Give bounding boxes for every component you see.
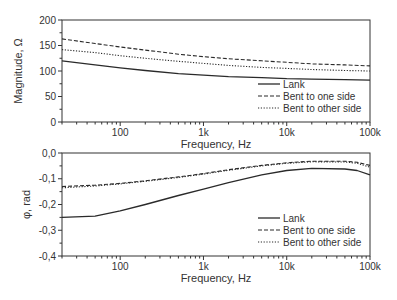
x-tick-label: 100 xyxy=(112,261,129,272)
magnitude-plot: 1001k10k100kFrequency, Hz050100150200Mag… xyxy=(12,15,382,151)
legend-label: Lank xyxy=(283,213,306,224)
x-tick-label: 100k xyxy=(359,261,382,272)
legend-label: Bent to one side xyxy=(283,225,356,236)
legend-label: Bent to other side xyxy=(283,237,362,248)
y-axis-label: φ, rad xyxy=(20,190,32,219)
series-bent-to-one-side xyxy=(62,39,370,66)
y-tick-label: -0,3 xyxy=(39,225,57,236)
phase-plot: 1001k10k100kFrequency, Hz-0,4-0,3-0,2-0,… xyxy=(20,148,382,285)
series-bent-to-one-side xyxy=(62,161,370,186)
series-lank xyxy=(62,61,370,80)
magnitude-legend: LankBent to one sideBent to other side xyxy=(258,79,362,114)
x-tick-label: 10k xyxy=(279,261,296,272)
x-tick-label: 1k xyxy=(198,127,210,138)
y-tick-label: 50 xyxy=(45,91,57,102)
y-tick-label: -0,1 xyxy=(39,173,57,184)
y-tick-label: -0,4 xyxy=(39,251,57,262)
legend-label: Bent to other side xyxy=(283,103,362,114)
y-tick-label: 150 xyxy=(39,40,56,51)
x-tick-label: 100 xyxy=(112,127,129,138)
series-bent-to-other-side xyxy=(62,50,370,71)
y-tick-label: 0 xyxy=(50,117,56,128)
y-axis-label: Magnitude, Ω xyxy=(12,38,24,104)
y-tick-label: 200 xyxy=(39,15,56,26)
x-tick-label: 10k xyxy=(279,127,296,138)
series-lank xyxy=(62,168,370,217)
legend-label: Lank xyxy=(283,79,306,90)
x-axis-label: Frequency, Hz xyxy=(181,138,252,150)
y-tick-label: 100 xyxy=(39,66,56,77)
x-tick-label: 1k xyxy=(198,261,210,272)
y-tick-label: 0,0 xyxy=(42,148,56,159)
chart-figure: 1001k10k100kFrequency, Hz050100150200Mag… xyxy=(0,0,397,300)
legend-label: Bent to one side xyxy=(283,91,356,102)
phase-legend: LankBent to one sideBent to other side xyxy=(258,213,362,248)
x-axis-label: Frequency, Hz xyxy=(181,272,252,284)
x-tick-label: 100k xyxy=(359,127,382,138)
y-tick-label: -0,2 xyxy=(39,199,57,210)
series-bent-to-other-side xyxy=(62,162,370,188)
